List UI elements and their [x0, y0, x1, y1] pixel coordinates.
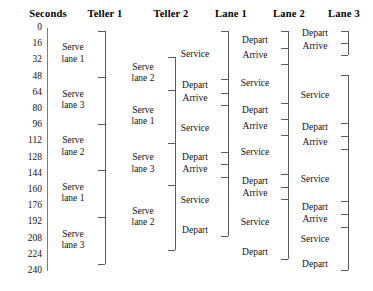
lane-3-track-event-2: Service — [290, 90, 340, 100]
teller-2-track-segment-2-line1: Serve — [119, 152, 167, 164]
teller-1-track-segment-1-line1: Serve — [49, 89, 97, 101]
seconds-tick-208: 208 — [0, 233, 42, 243]
lane-2-track-tick-6 — [281, 174, 288, 175]
teller-2-track-segment-3-line1: Serve — [119, 206, 167, 218]
lane-1-track-event-7: Depart — [170, 225, 220, 235]
lane-3-track-event-3: Depart — [290, 122, 340, 132]
lane-3-track-bracket-1-tick-3 — [341, 149, 348, 150]
lane-3-track-event-1: Arrive — [290, 41, 340, 51]
lane-1-track-tick-6 — [221, 177, 228, 178]
lane-2-track-tick-0 — [281, 31, 288, 32]
teller-2-track-segment-0: Servelane 2 — [119, 62, 167, 85]
lane-1-track-spine — [228, 31, 229, 236]
lane-3-track-bracket-1-tick-6 — [341, 227, 348, 228]
teller-1-track-segment-2-line1: Serve — [49, 135, 97, 147]
lane-2-track-tick-9 — [281, 259, 288, 260]
teller-1-track-tick-0 — [98, 31, 105, 32]
timeline-diagram: SecondsTeller 1Teller 2Lane 1Lane 2Lane … — [0, 0, 373, 291]
column-header-lane1: Lane 1 — [202, 8, 260, 19]
teller-1-track-tick-2 — [98, 124, 105, 125]
lane-3-track-event-7: Arrive — [290, 214, 340, 224]
seconds-tick-32: 32 — [0, 54, 42, 64]
teller-2-track-segment-2-line2: lane 3 — [119, 164, 167, 176]
lane-2-track-tick-7 — [281, 187, 288, 188]
teller-1-track-segment-0-line1: Serve — [49, 42, 97, 54]
seconds-tick-160: 160 — [0, 184, 42, 194]
column-header-teller2: Teller 2 — [140, 8, 202, 19]
seconds-tick-128: 128 — [0, 152, 42, 162]
teller-2-track-segment-0-line1: Serve — [119, 62, 167, 74]
lane-3-track-event-5: Service — [290, 174, 340, 184]
lane-3-track-bracket-0-tick-1 — [341, 43, 348, 44]
teller-1-track-tick-3 — [98, 170, 105, 171]
lane-2-track-event-6: Depart — [230, 176, 280, 186]
lane-2-track-tick-2 — [281, 64, 288, 65]
lane-3-track-event-9: Depart — [290, 259, 340, 269]
lane-3-track-bracket-1-tick-1 — [341, 123, 348, 124]
seconds-tick-224: 224 — [0, 249, 42, 259]
teller-1-track-spine — [105, 31, 106, 264]
lane-3-track-bracket-1-tick-7 — [341, 270, 348, 271]
lane-3-track-bracket-0-tick-2 — [341, 55, 348, 56]
lane-2-track-event-0: Depart — [230, 35, 280, 45]
teller-1-track-segment-1: Servelane 3 — [49, 89, 97, 112]
lane-3-track-event-6: Depart — [290, 202, 340, 212]
column-header-lane3: Lane 3 — [316, 8, 372, 19]
seconds-tick-176: 176 — [0, 200, 42, 210]
lane-2-track-event-8: Service — [230, 217, 280, 227]
teller-1-track-segment-4: Servelane 3 — [49, 229, 97, 252]
lane-3-track-event-0: Depart — [290, 28, 340, 38]
teller-2-track-tick-1 — [168, 90, 175, 91]
seconds-tick-96: 96 — [0, 119, 42, 129]
teller-1-track-tick-1 — [98, 77, 105, 78]
teller-2-track-segment-3-line2: lane 2 — [119, 217, 167, 229]
teller-1-track-segment-0: Servelane 1 — [49, 42, 97, 65]
teller-2-track-segment-1-line1: Serve — [119, 105, 167, 117]
teller-2-track-tick-2 — [168, 143, 175, 144]
lane-3-track-bracket-1-tick-0 — [341, 75, 348, 76]
teller-1-track-segment-0-line2: lane 1 — [49, 54, 97, 66]
lane-2-track-tick-3 — [281, 103, 288, 104]
lane-1-track-event-0: Service — [170, 49, 220, 59]
lane-1-track-event-1: Depart — [170, 80, 220, 90]
lane-1-track-event-5: Arrive — [170, 164, 220, 174]
teller-1-track-segment-1-line2: lane 3 — [49, 100, 97, 112]
lane-2-track-event-4: Arrive — [230, 121, 280, 131]
lane-3-track-event-4: Arrive — [290, 137, 340, 147]
lane-1-track-tick-5 — [221, 164, 228, 165]
lane-2-track-tick-8 — [281, 199, 288, 200]
lane-2-track-event-2: Service — [230, 78, 280, 88]
teller-1-track-segment-4-line1: Serve — [49, 229, 97, 241]
lane-3-track-event-8: Service — [290, 234, 340, 244]
lane-1-track-tick-1 — [221, 79, 228, 80]
lane-1-track-tick-3 — [221, 105, 228, 106]
teller-2-track-segment-0-line2: lane 2 — [119, 73, 167, 85]
lane-2-track-tick-4 — [281, 119, 288, 120]
seconds-axis-line — [47, 28, 48, 271]
lane-2-track-event-7: Arrive — [230, 188, 280, 198]
teller-2-track-segment-2: Servelane 3 — [119, 152, 167, 175]
lane-1-track-tick-0 — [221, 31, 228, 32]
seconds-tick-144: 144 — [0, 168, 42, 178]
lane-1-track-event-6: Service — [170, 195, 220, 205]
lane-1-track-event-2: Arrive — [170, 93, 220, 103]
lane-1-track-event-3: Service — [170, 123, 220, 133]
seconds-tick-64: 64 — [0, 87, 42, 97]
teller-1-track-tick-4 — [98, 217, 105, 218]
lane-3-track-bracket-0-tick-0 — [341, 31, 348, 32]
seconds-tick-112: 112 — [0, 135, 42, 145]
seconds-tick-240: 240 — [0, 265, 42, 275]
seconds-tick-80: 80 — [0, 103, 42, 113]
teller-1-track-segment-3-line2: lane 1 — [49, 193, 97, 205]
column-header-lane2: Lane 2 — [260, 8, 318, 19]
teller-2-track-segment-3: Servelane 2 — [119, 206, 167, 229]
teller-1-track-segment-3: Servelane 1 — [49, 182, 97, 205]
teller-2-track-tick-3 — [168, 185, 175, 186]
teller-2-track-segment-1: Servelane 1 — [119, 105, 167, 128]
lane-2-track-spine — [288, 31, 289, 259]
seconds-tick-16: 16 — [0, 38, 42, 48]
lane-1-track-tick-2 — [221, 93, 228, 94]
column-header-teller1: Teller 1 — [74, 8, 136, 19]
seconds-tick-192: 192 — [0, 216, 42, 226]
teller-1-track-segment-2: Servelane 2 — [49, 135, 97, 158]
